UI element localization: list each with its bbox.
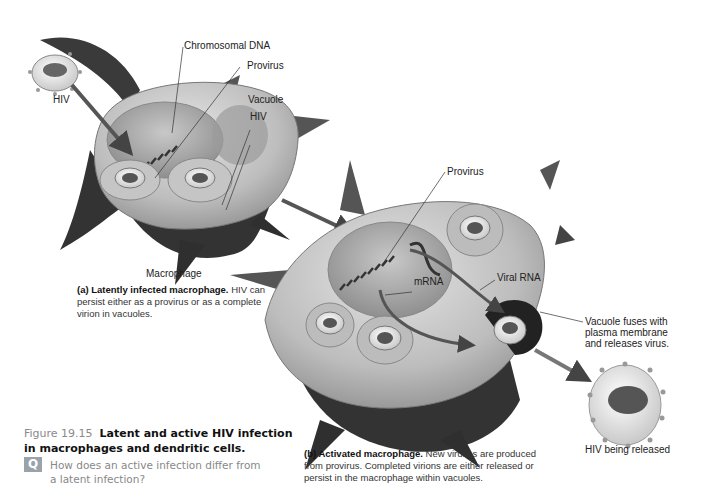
label-hiv-being-released: HIV being released [585,444,670,456]
caption-panel-a-title: (a) Latently infected macrophage. [77,284,229,295]
label-provirus-a: Provirus [247,60,284,72]
label-vacuole: Vacuole [248,94,283,106]
figure-caption: Figure 19.15 Latent and active HIV infec… [24,426,294,456]
hiv-virion-icon [115,168,145,188]
label-hiv-vacuole: HIV [250,111,267,123]
label-provirus-b: Provirus [447,166,484,178]
activated-macrophage-cell [230,160,575,470]
figure-number: Figure 19.15 [24,427,93,440]
question-icon: Q [24,457,42,472]
hiv-virion-icon [460,216,490,240]
label-hiv-external: HIV [53,94,70,106]
caption-panel-b: (b) Activated macrophage. New viruses ar… [304,448,539,484]
figure-question: How does an active infection differ from… [50,458,270,486]
hiv-virion-icon [494,316,526,344]
label-viral-rna: Viral RNA [497,272,541,284]
release-arrow [535,350,585,378]
released-hiv-virion-icon [588,362,666,449]
label-vacuole-fuses-3: and releases virus. [585,338,669,350]
hiv-virion-icon [369,326,401,350]
hiv-virion-icon [316,312,344,334]
hiv-infection-illustration [0,0,701,495]
label-macrophage: Macrophage [146,268,202,280]
hiv-virion-icon [185,168,215,188]
caption-panel-b-title: (b) Activated macrophage. [304,448,423,459]
latent-macrophage-cell [40,37,330,285]
label-chromosomal-dna: Chromosomal DNA [184,40,270,52]
label-mrna: mRNA [414,276,443,288]
caption-panel-a: (a) Latently infected macrophage. HIV ca… [77,284,277,320]
